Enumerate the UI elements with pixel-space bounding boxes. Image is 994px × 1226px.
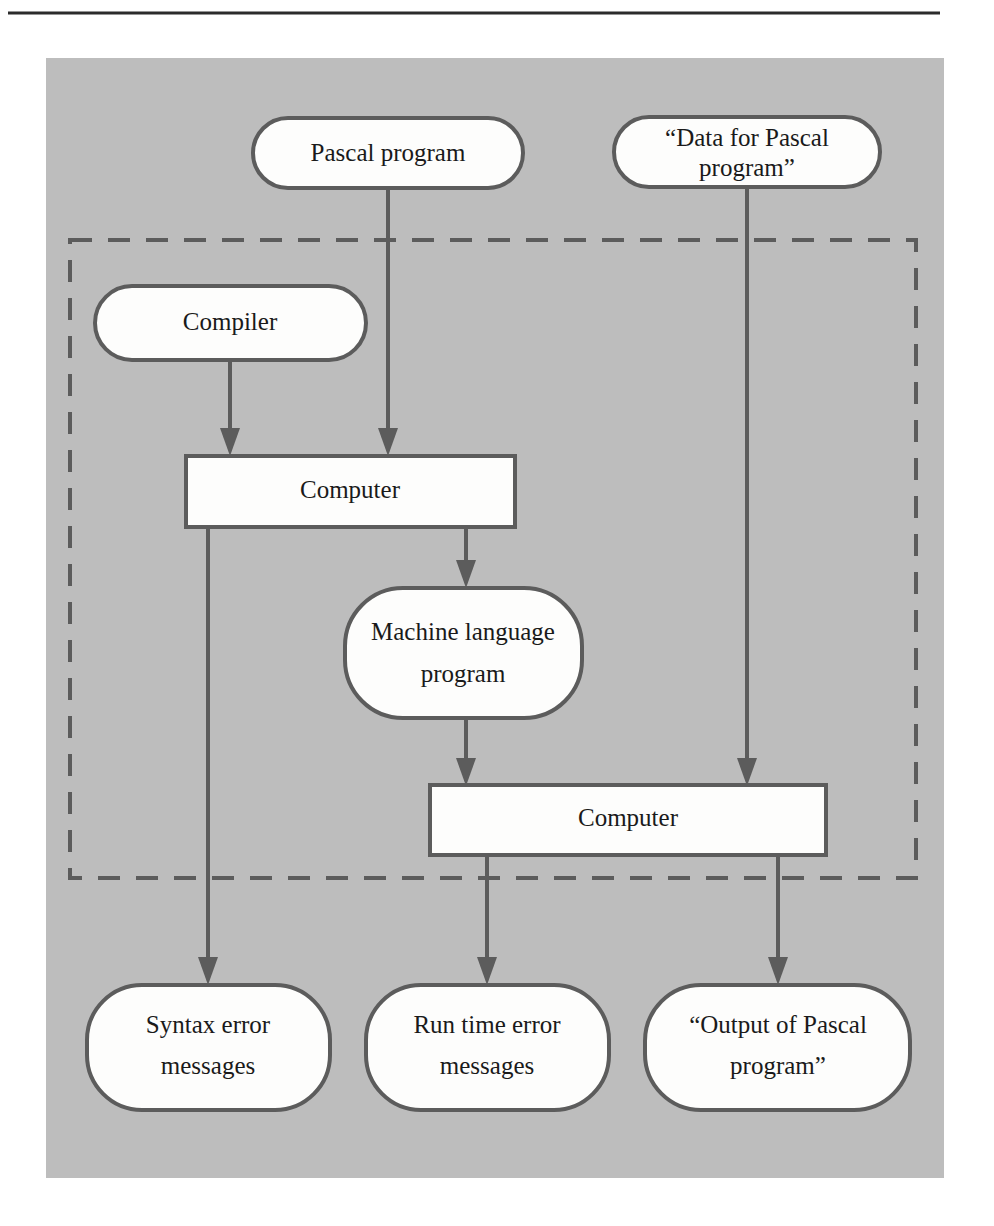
node-runtime-error-messages-label-line2: messages (440, 1052, 534, 1079)
node-computer-run[interactable]: Computer (430, 785, 826, 855)
node-syntax-error-messages-shape (87, 985, 330, 1110)
node-syntax-error-messages-label-line2: messages (161, 1052, 255, 1079)
node-output-of-pascal-program-label-line2: program” (730, 1052, 826, 1079)
node-machine-language-program-label-line2: program (421, 660, 506, 687)
node-machine-language-program[interactable]: Machine language program (345, 588, 582, 718)
node-syntax-error-messages[interactable]: Syntax error messages (87, 985, 330, 1110)
node-compiler[interactable]: Compiler (95, 286, 366, 360)
node-data-for-pascal-program-label-line1: “Data for Pascal (665, 124, 829, 151)
node-compiler-label: Compiler (183, 308, 278, 335)
node-data-for-pascal-program-label-line2: program” (699, 154, 795, 181)
node-pascal-program[interactable]: Pascal program (253, 118, 523, 188)
node-computer-run-label: Computer (578, 804, 679, 831)
node-computer-compile[interactable]: Computer (186, 456, 515, 527)
node-computer-compile-label: Computer (300, 476, 401, 503)
node-runtime-error-messages-label-line1: Run time error (413, 1011, 561, 1038)
node-pascal-program-label: Pascal program (311, 139, 466, 166)
node-runtime-error-messages-shape (366, 985, 609, 1110)
node-output-of-pascal-program-shape (645, 985, 910, 1110)
node-data-for-pascal-program[interactable]: “Data for Pascal program” (614, 117, 880, 187)
node-machine-language-program-label-line1: Machine language (371, 618, 555, 645)
node-runtime-error-messages[interactable]: Run time error messages (366, 985, 609, 1110)
node-machine-language-program-shape (345, 588, 582, 718)
node-output-of-pascal-program[interactable]: “Output of Pascal program” (645, 985, 910, 1110)
node-output-of-pascal-program-label-line1: “Output of Pascal (689, 1011, 867, 1038)
node-syntax-error-messages-label-line1: Syntax error (146, 1011, 271, 1038)
flowchart-figure: Pascal program “Data for Pascal program”… (0, 0, 994, 1226)
